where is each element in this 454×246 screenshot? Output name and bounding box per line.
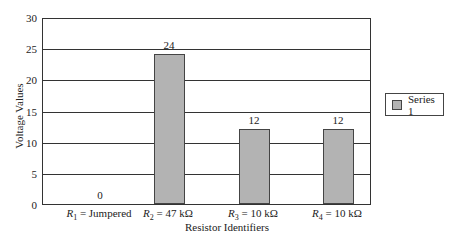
x-tick-label: R3 = 10 kΩ bbox=[228, 207, 278, 222]
bar bbox=[239, 129, 270, 204]
y-tick-label: 0 bbox=[0, 199, 37, 211]
legend-label: Series 1 bbox=[408, 93, 443, 117]
x-axis-label: Resistor Identifiers bbox=[0, 221, 454, 233]
data-label: 12 bbox=[234, 114, 274, 126]
x-tick-label: R2 = 47 kΩ bbox=[143, 207, 193, 222]
y-tick-label: 10 bbox=[0, 137, 37, 149]
y-tick-label: 20 bbox=[0, 74, 37, 86]
data-label: 0 bbox=[80, 189, 120, 201]
gridline bbox=[43, 143, 370, 144]
bar bbox=[154, 54, 185, 204]
gridline bbox=[43, 80, 370, 81]
y-tick-label: 5 bbox=[0, 168, 37, 180]
gridline bbox=[43, 174, 370, 175]
x-tick-label: R1 = Jumpered bbox=[66, 207, 131, 222]
legend: Series 1 bbox=[385, 93, 444, 116]
gridline bbox=[43, 49, 370, 50]
gridline bbox=[43, 112, 370, 113]
y-tick-label: 25 bbox=[0, 43, 37, 55]
bar bbox=[323, 129, 354, 204]
plot-area: 0241212 bbox=[42, 18, 371, 205]
gridline bbox=[43, 18, 370, 19]
y-tick-label: 30 bbox=[0, 12, 37, 24]
y-tick-label: 15 bbox=[0, 106, 37, 118]
x-tick-label: R4 = 10 kΩ bbox=[312, 207, 362, 222]
legend-swatch bbox=[392, 100, 402, 110]
data-label: 24 bbox=[149, 39, 189, 51]
data-label: 12 bbox=[318, 114, 358, 126]
